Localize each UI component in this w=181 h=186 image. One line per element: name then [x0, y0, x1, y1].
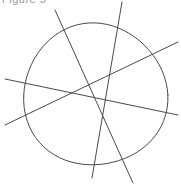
line-b — [92, 2, 122, 178]
line-c — [5, 42, 178, 125]
geometry-diagram — [0, 0, 181, 186]
line-a — [55, 10, 133, 183]
circle-outline — [24, 23, 168, 165]
line-d — [5, 79, 178, 115]
